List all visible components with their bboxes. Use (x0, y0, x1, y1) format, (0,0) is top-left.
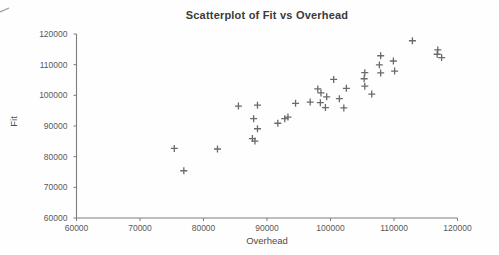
data-point-marker (434, 51, 441, 58)
y-tick-label: 70000 (44, 182, 68, 192)
x-tick-label: 110000 (380, 223, 408, 233)
data-point-marker (361, 75, 368, 82)
data-point-marker (361, 83, 368, 90)
data-point-marker (274, 120, 281, 127)
y-tick-label: 120000 (39, 29, 68, 39)
x-axis-title: Overhead (76, 235, 458, 246)
data-point-marker (317, 99, 324, 106)
data-point-marker (322, 104, 329, 111)
scatterplot-figure: Scatterplot of Fit vs Overhead 600007000… (0, 0, 499, 255)
data-point-marker (235, 103, 242, 110)
data-point-marker (368, 91, 375, 98)
data-point-marker (377, 52, 384, 59)
data-point-marker (323, 93, 330, 100)
x-tick-label: 70000 (128, 223, 152, 233)
data-point-marker (409, 37, 416, 44)
data-point-marker (340, 104, 347, 111)
y-tick-label: 100000 (39, 90, 68, 100)
data-point-marker (438, 54, 445, 61)
x-tick-label: 80000 (192, 223, 216, 233)
data-point-marker (254, 102, 261, 109)
data-point-marker (180, 167, 187, 174)
y-tick-label: 90000 (44, 121, 68, 131)
data-point-marker (314, 85, 321, 92)
data-point-marker (317, 89, 324, 96)
data-point-marker (361, 69, 368, 76)
data-point-marker (330, 76, 337, 83)
plot-area: 6000070000800009000010000011000012000060… (0, 0, 499, 255)
y-tick-label: 80000 (44, 152, 68, 162)
x-tick-label: 120000 (443, 223, 472, 233)
x-tick-label: 90000 (255, 223, 279, 233)
y-tick-label: 110000 (40, 60, 68, 70)
data-points-group (171, 37, 445, 174)
data-point-marker (214, 146, 221, 153)
axes-group (74, 34, 458, 221)
data-point-marker (254, 125, 261, 132)
data-point-marker (391, 68, 398, 75)
x-tick-label: 60000 (65, 223, 89, 233)
data-point-marker (250, 115, 257, 122)
x-tick-label: 100000 (316, 223, 345, 233)
data-point-marker (343, 85, 350, 92)
data-point-marker (284, 114, 291, 121)
data-point-marker (376, 61, 383, 68)
y-axis-title: Fit (8, 116, 19, 127)
data-point-marker (390, 57, 397, 64)
data-point-marker (292, 100, 299, 107)
data-point-marker (171, 145, 178, 152)
scan-artifact-mark (0, 8, 9, 12)
y-tick-label: 60000 (44, 213, 68, 223)
tick-labels-group: 6000070000800009000010000011000012000060… (39, 29, 472, 233)
data-point-marker (377, 69, 384, 76)
data-point-marker (307, 99, 314, 106)
data-point-marker (336, 95, 343, 102)
data-point-marker (281, 115, 288, 122)
